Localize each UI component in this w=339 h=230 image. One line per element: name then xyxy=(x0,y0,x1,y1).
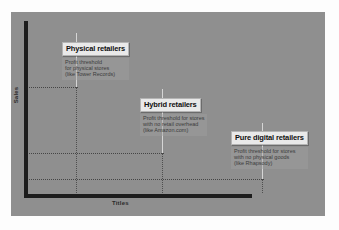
callout-body-physical: Profit threshold for physical stores (li… xyxy=(62,58,129,80)
x-axis xyxy=(24,194,252,198)
callout-physical-line-3: (like Tower Records) xyxy=(65,71,126,77)
callout-pure-digital-retailers: Pure digital retailers Profit threshold … xyxy=(231,126,308,169)
step-divider-physical xyxy=(76,87,77,193)
step-divider-hybrid xyxy=(162,153,163,193)
x-axis-label: Titles xyxy=(112,200,129,206)
callout-hybrid-retailers: Hybrid retailers Profit threshold for st… xyxy=(140,93,207,136)
callout-title-hybrid: Hybrid retailers xyxy=(140,98,201,113)
step-divider-digital xyxy=(262,179,263,193)
threshold-line-physical xyxy=(27,87,78,88)
y-axis-label: Sales xyxy=(13,73,19,117)
long-tail-chart-figure: Sales Titles Physical retailers Profit t… xyxy=(0,0,339,230)
callout-title-physical: Physical retailers xyxy=(62,42,129,57)
threshold-line-hybrid xyxy=(27,153,164,154)
callout-physical-retailers: Physical retailers Profit threshold for … xyxy=(62,37,129,80)
callout-digital-line-3: (like Rhapsody) xyxy=(234,160,305,166)
threshold-line-digital xyxy=(27,179,264,180)
callout-body-digital: Profit threshold for stores with no phys… xyxy=(231,147,308,169)
y-axis xyxy=(24,21,28,198)
callout-body-hybrid: Profit threshold for stores with no reta… xyxy=(140,114,207,136)
callout-hybrid-line-3: (like Amazon.com) xyxy=(143,127,204,133)
callout-title-digital: Pure digital retailers xyxy=(231,131,308,146)
